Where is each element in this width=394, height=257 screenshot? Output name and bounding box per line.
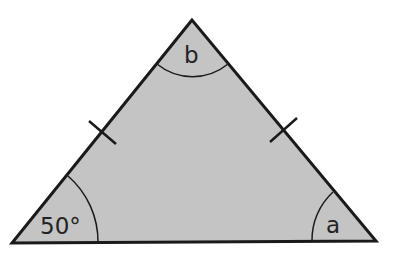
angle-label-bottom-right: a [326, 212, 340, 238]
triangle-diagram: 50° b a [0, 0, 394, 257]
angle-label-top: b [184, 42, 199, 68]
angle-label-bottom-left: 50° [40, 213, 81, 239]
